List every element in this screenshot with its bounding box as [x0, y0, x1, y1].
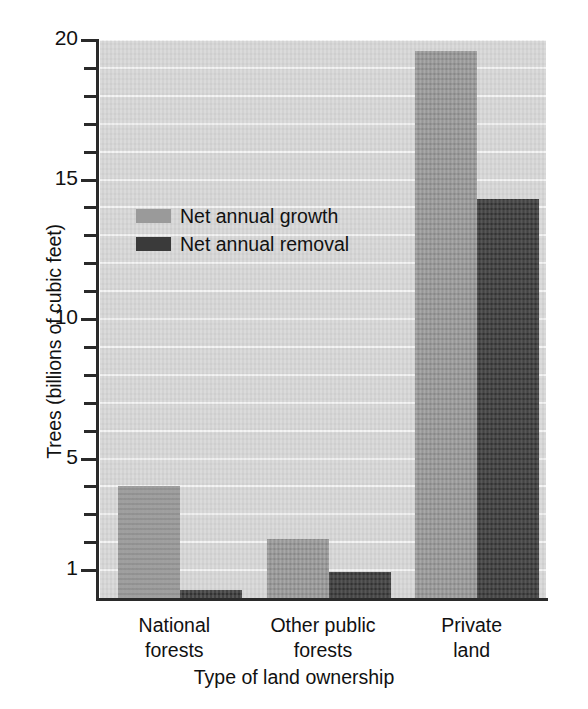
y-tick-label-15: 15 — [0, 166, 78, 190]
y-tick-5 — [81, 458, 97, 461]
gridline-17 — [100, 123, 546, 125]
gridline-15 — [100, 179, 546, 181]
y-tick-6 — [84, 430, 97, 433]
y-tick-label-5: 5 — [0, 445, 78, 469]
bar-private-land-net-annual-growth — [415, 51, 477, 598]
x-category-label-private-land: Privateland — [382, 613, 562, 663]
y-tick-15 — [81, 179, 97, 182]
bar-texture — [267, 539, 329, 598]
y-tick-13 — [84, 234, 97, 237]
x-category-label-line-1: Private — [441, 614, 502, 636]
y-tick-2 — [84, 541, 97, 544]
gridline-16 — [100, 151, 546, 153]
x-category-label-line-2: land — [382, 638, 562, 663]
bar-private-land-net-annual-removal — [477, 199, 539, 598]
legend-swatch-removal — [136, 237, 171, 251]
legend-swatch-growth — [136, 209, 171, 223]
bar-national-forests-net-annual-growth — [118, 486, 180, 598]
y-tick-9 — [84, 346, 97, 349]
bar-texture — [180, 590, 242, 598]
bar-texture — [118, 486, 180, 598]
legend-label-removal: Net annual removal — [180, 230, 349, 258]
y-tick-label-20: 20 — [0, 26, 78, 50]
y-tick-20 — [81, 39, 97, 42]
bar-national-forests-net-annual-removal — [180, 590, 242, 598]
y-tick-19 — [84, 67, 97, 70]
legend-item-2: Net annual removal — [136, 230, 349, 258]
y-tick-8 — [84, 374, 97, 377]
gridline-19 — [100, 67, 546, 69]
y-tick-4 — [84, 485, 97, 488]
y-tick-11 — [84, 290, 97, 293]
y-tick-12 — [84, 262, 97, 265]
x-category-label-line-1: National — [139, 614, 211, 636]
y-tick-label-1: 1 — [0, 556, 78, 580]
gridline-18 — [100, 95, 546, 97]
y-tick-16 — [84, 151, 97, 154]
bar-texture — [415, 51, 477, 598]
y-tick-17 — [84, 123, 97, 126]
y-tick-label-10: 10 — [0, 305, 78, 329]
y-tick-14 — [84, 206, 97, 209]
bar-texture — [477, 199, 539, 598]
bar-other-public-forests-net-annual-growth — [267, 539, 329, 598]
x-category-label-line-1: Other public — [270, 614, 375, 636]
bar-chart-figure: Trees (billions of cubic feet) 20151051 … — [0, 0, 588, 709]
plot-area — [100, 40, 546, 598]
y-tick-10 — [81, 318, 97, 321]
x-axis-line — [96, 598, 548, 601]
legend-item-1: Net annual growth — [136, 202, 349, 230]
y-tick-3 — [84, 513, 97, 516]
legend-label-growth: Net annual growth — [180, 202, 338, 230]
y-tick-18 — [84, 95, 97, 98]
x-axis-title: Type of land ownership — [0, 666, 588, 689]
y-axis-title: Trees (billions of cubic feet) — [43, 202, 66, 482]
gridline-20 — [100, 40, 546, 41]
bar-other-public-forests-net-annual-removal — [329, 572, 391, 599]
y-tick-7 — [84, 402, 97, 405]
y-tick-1 — [81, 569, 97, 572]
bar-texture — [329, 572, 391, 599]
chart-legend: Net annual growthNet annual removal — [136, 202, 349, 258]
